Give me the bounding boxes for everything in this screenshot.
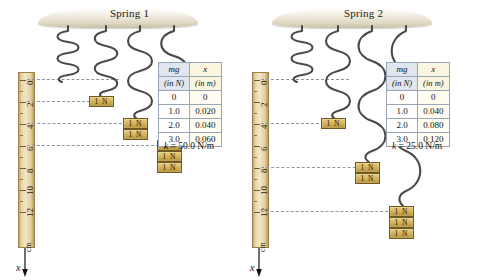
weight-stack-2-1: 1 N bbox=[321, 118, 346, 129]
x-axis-label-2: x bbox=[250, 262, 254, 273]
weight-stack-2-3: 1 N 1 N 1 N bbox=[389, 206, 414, 239]
weight-block: 1 N bbox=[389, 217, 414, 228]
weight-stack-1-2: 1 N 1 N bbox=[123, 118, 148, 140]
table-row: 2.0 0.080 bbox=[387, 119, 450, 133]
table-row: 1.0 0.020 bbox=[159, 105, 222, 119]
ruler-tick-label: 2 bbox=[259, 103, 269, 108]
ruler-tick-minor bbox=[254, 135, 257, 136]
cell-mg: 1.0 bbox=[159, 105, 190, 119]
cell-x: 0 bbox=[418, 91, 450, 105]
x-axis-label-1: x bbox=[16, 262, 20, 273]
ruler-tick-label: 4 bbox=[259, 125, 269, 130]
table-header-x-unit: (in m) bbox=[190, 77, 222, 91]
table-row: 0 0 bbox=[159, 91, 222, 105]
ruler-tick-minor bbox=[20, 157, 23, 158]
ruler-tick-label: 8 bbox=[25, 169, 35, 174]
cell-x: 0.040 bbox=[190, 119, 222, 133]
spring-coil-1-1weight bbox=[88, 26, 124, 100]
cell-mg: 0 bbox=[159, 91, 190, 105]
ruler-tick-label: 10 bbox=[259, 186, 269, 195]
ruler-tick-minor bbox=[254, 179, 257, 180]
cell-mg: 0 bbox=[387, 91, 418, 105]
ruler-tick-label: 0 bbox=[259, 81, 269, 86]
table-header-x: x bbox=[418, 63, 450, 77]
table-header-mg-unit: (in N) bbox=[387, 77, 418, 91]
data-table-spring-1: mg x (in N) (in m) 0 0 1.0 0.020 2.0 0.0… bbox=[158, 62, 222, 147]
ruler-tick-minor bbox=[254, 113, 257, 114]
spring-coil-2-2weights bbox=[354, 26, 390, 166]
panel-title-spring-2: Spring 2 bbox=[240, 7, 479, 19]
weight-block: 1 N bbox=[157, 162, 182, 173]
weight-block: 1 N bbox=[389, 206, 414, 217]
spring-1-panel: Spring 1 024681012cm x 1 N 1 N 1 N 1 N 1… bbox=[0, 0, 239, 280]
x-axis-arrow-1 bbox=[20, 248, 30, 278]
k-value: = 50.0 N/m bbox=[171, 141, 215, 151]
guide-line-2cm-1 bbox=[27, 101, 95, 102]
table-header-mg-unit: (in N) bbox=[159, 77, 190, 91]
weight-stack-1-1: 1 N bbox=[89, 96, 114, 107]
panel-title-spring-1: Spring 1 bbox=[0, 7, 249, 19]
ruler-tick-minor bbox=[254, 201, 257, 202]
ruler-tick-label: 12 bbox=[25, 208, 35, 217]
ruler-tick-label: 6 bbox=[259, 147, 269, 152]
table-header-x-unit: (in m) bbox=[418, 77, 450, 91]
weight-block: 1 N bbox=[89, 96, 114, 107]
ruler-tick-label: 2 bbox=[25, 103, 35, 108]
ruler-tick-label: 8 bbox=[259, 169, 269, 174]
ruler-tick-label: 6 bbox=[25, 147, 35, 152]
ruler-spring-1: 024681012cm bbox=[18, 72, 35, 248]
spring-coil-2-0weights bbox=[284, 26, 320, 84]
spring-coil-1-2weights bbox=[122, 26, 158, 122]
cell-mg: 2.0 bbox=[387, 119, 418, 133]
spring-coil-1-0weights bbox=[50, 26, 86, 86]
ruler-tick-minor bbox=[20, 179, 23, 180]
ruler-tick-label: 12 bbox=[259, 208, 269, 217]
guide-line-4cm-1 bbox=[27, 123, 127, 124]
cell-x: 0.040 bbox=[418, 105, 450, 119]
k-symbol: k bbox=[164, 141, 168, 151]
ruler-tick-minor bbox=[20, 135, 23, 136]
guide-line-12cm-2 bbox=[261, 211, 403, 212]
ruler-tick-label: 0 bbox=[25, 81, 35, 86]
cell-mg: 1.0 bbox=[387, 105, 418, 119]
ruler-tick-minor bbox=[20, 91, 23, 92]
table-header-x: x bbox=[190, 63, 222, 77]
table-header-mg: mg bbox=[159, 63, 190, 77]
spring-coil-2-1weight bbox=[320, 26, 356, 122]
k-symbol: k bbox=[392, 141, 396, 151]
ruler-tick-minor bbox=[254, 91, 257, 92]
spring-2-panel: Spring 2 024681012cm x 1 N 1 N 1 N 1 N 1… bbox=[240, 0, 479, 280]
ruler-tick-minor bbox=[20, 201, 23, 202]
cell-x: 0.080 bbox=[418, 119, 450, 133]
spring-constant-label-2: k = 25.0 N/m bbox=[392, 141, 442, 151]
cell-mg: 2.0 bbox=[159, 119, 190, 133]
weight-block: 1 N bbox=[355, 162, 380, 173]
weight-block: 1 N bbox=[123, 129, 148, 140]
weight-stack-2-2: 1 N 1 N bbox=[355, 162, 380, 184]
x-axis-arrow-2 bbox=[254, 248, 264, 278]
ruler-tick-minor bbox=[254, 157, 257, 158]
ruler-spring-2: 024681012cm bbox=[252, 72, 269, 248]
table-row: 0 0 bbox=[387, 91, 450, 105]
weight-block: 1 N bbox=[157, 151, 182, 162]
cell-x: 0.020 bbox=[190, 105, 222, 119]
table-row: 1.0 0.040 bbox=[387, 105, 450, 119]
spring-constant-label-1: k = 50.0 N/m bbox=[164, 141, 214, 151]
weight-block: 1 N bbox=[355, 173, 380, 184]
ruler-tick-label: 10 bbox=[25, 186, 35, 195]
k-value: = 25.0 N/m bbox=[399, 141, 443, 151]
table-row: 2.0 0.040 bbox=[159, 119, 222, 133]
guide-line-6cm-1 bbox=[27, 145, 159, 146]
ruler-tick-minor bbox=[20, 113, 23, 114]
weight-block: 1 N bbox=[389, 228, 414, 239]
cell-x: 0 bbox=[190, 91, 222, 105]
ruler-tick-label: 4 bbox=[25, 125, 35, 130]
table-header-mg: mg bbox=[387, 63, 418, 77]
weight-block: 1 N bbox=[123, 118, 148, 129]
weight-block: 1 N bbox=[321, 118, 346, 129]
data-table-spring-2: mg x (in N) (in m) 0 0 1.0 0.040 2.0 0.0… bbox=[386, 62, 450, 147]
